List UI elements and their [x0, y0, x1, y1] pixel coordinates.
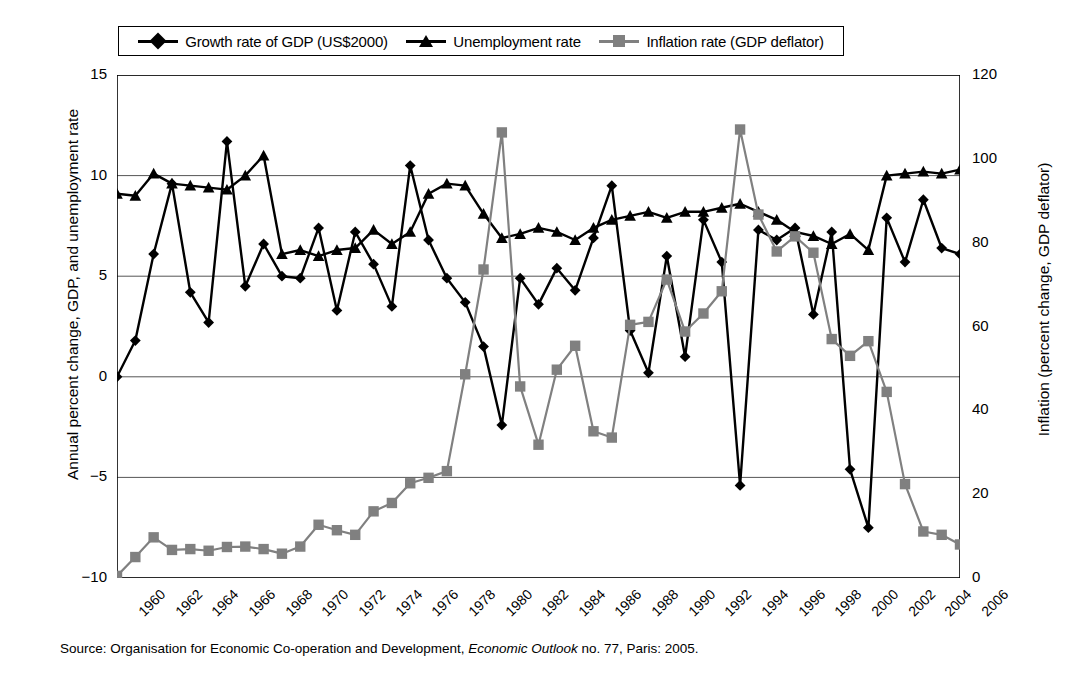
- x-tick-2000: 2000: [868, 586, 901, 619]
- x-tick-1970: 1970: [318, 586, 351, 619]
- legend-label-unemployment: Unemployment rate: [453, 33, 581, 50]
- left-tick--10: −10: [61, 568, 107, 585]
- x-tick-1984: 1984: [575, 586, 608, 619]
- legend-label-gdp: Growth rate of GDP (US$2000): [185, 33, 388, 50]
- right-tick-40: 40: [972, 400, 1018, 417]
- legend-item-inflation: Inflation rate (GDP deflator): [599, 33, 823, 50]
- x-tick-2004: 2004: [941, 586, 974, 619]
- source-suffix: no. 77, Paris: 2005.: [578, 641, 699, 656]
- legend-diamond-icon: [138, 34, 178, 48]
- left-tick-5: 5: [61, 266, 107, 283]
- right-tick-80: 80: [972, 233, 1018, 250]
- legend-triangle-icon: [406, 34, 446, 48]
- plot-area: [117, 75, 960, 578]
- x-tick-1972: 1972: [355, 586, 388, 619]
- legend-item-gdp: Growth rate of GDP (US$2000): [138, 33, 388, 50]
- x-tick-1968: 1968: [282, 586, 315, 619]
- x-tick-1986: 1986: [612, 586, 645, 619]
- right-tick-20: 20: [972, 484, 1018, 501]
- left-axis-title: Annual percent change, GDP, and unemploy…: [63, 85, 82, 505]
- left-tick-0: 0: [61, 367, 107, 384]
- x-tick-2006: 2006: [978, 586, 1011, 619]
- x-tick-1996: 1996: [795, 586, 828, 619]
- legend-item-unemployment: Unemployment rate: [406, 33, 581, 50]
- x-tick-2002: 2002: [905, 586, 938, 619]
- x-tick-1992: 1992: [722, 586, 755, 619]
- legend-square-icon: [599, 34, 639, 48]
- x-tick-1974: 1974: [392, 586, 425, 619]
- left-tick-15: 15: [61, 65, 107, 82]
- source-italic: Economic Outlook: [468, 641, 578, 656]
- legend-label-inflation: Inflation rate (GDP deflator): [646, 33, 823, 50]
- left-tick--5: −5: [61, 467, 107, 484]
- x-tick-1978: 1978: [465, 586, 498, 619]
- x-tick-1976: 1976: [428, 586, 461, 619]
- x-tick-1960: 1960: [135, 586, 168, 619]
- source-note: Source: Organisation for Economic Co-ope…: [60, 641, 699, 656]
- x-tick-1990: 1990: [685, 586, 718, 619]
- x-tick-1980: 1980: [502, 586, 535, 619]
- source-prefix: Source: Organisation for Economic Co-ope…: [60, 641, 468, 656]
- right-tick-60: 60: [972, 317, 1018, 334]
- right-tick-0: 0: [972, 568, 1018, 585]
- x-tick-1962: 1962: [172, 586, 205, 619]
- left-tick-10: 10: [61, 166, 107, 183]
- x-tick-1964: 1964: [208, 586, 241, 619]
- right-tick-120: 120: [972, 65, 1018, 82]
- x-tick-1998: 1998: [832, 586, 865, 619]
- x-tick-1994: 1994: [758, 586, 791, 619]
- x-tick-1988: 1988: [648, 586, 681, 619]
- right-axis-title: Inflation (percent change, GDP deflator): [1034, 85, 1053, 515]
- x-tick-1966: 1966: [245, 586, 278, 619]
- chart-page: Growth rate of GDP (US$2000) Unemploymen…: [0, 0, 1077, 679]
- x-tick-1982: 1982: [538, 586, 571, 619]
- right-tick-100: 100: [972, 149, 1018, 166]
- chart-legend: Growth rate of GDP (US$2000) Unemploymen…: [118, 26, 844, 56]
